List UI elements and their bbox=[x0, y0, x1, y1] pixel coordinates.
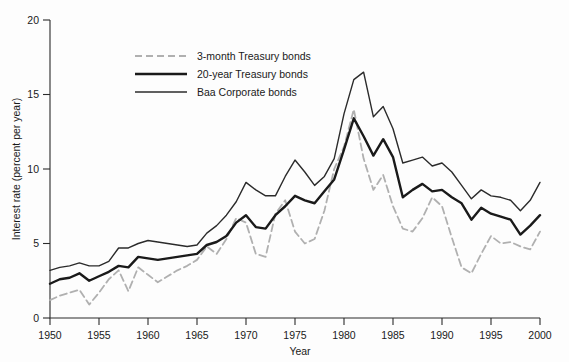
x-tick-label: 2000 bbox=[528, 329, 552, 341]
series-line-2 bbox=[50, 72, 540, 270]
legend-label-1: 20-year Treasury bonds bbox=[197, 68, 308, 80]
legend-label-0: 3-month Treasury bonds bbox=[197, 50, 311, 62]
series-line-0 bbox=[50, 109, 540, 304]
x-axis-ticks: 1950195519601965197019751980198519901995… bbox=[38, 318, 552, 341]
x-tick-label: 1950 bbox=[38, 329, 62, 341]
x-tick-label: 1955 bbox=[87, 329, 111, 341]
x-axis-title: Year bbox=[289, 345, 311, 357]
chart-canvas: 05101520 1950195519601965197019751980198… bbox=[0, 0, 569, 362]
x-tick-label: 1980 bbox=[332, 329, 356, 341]
x-tick-label: 1990 bbox=[430, 329, 454, 341]
axis-lines bbox=[50, 20, 540, 318]
y-tick-label: 5 bbox=[33, 237, 39, 249]
y-tick-label: 20 bbox=[27, 14, 39, 26]
y-tick-label: 15 bbox=[27, 88, 39, 100]
y-axis-title: Interest rate (percent per year) bbox=[10, 98, 22, 240]
series-line-1 bbox=[50, 118, 540, 283]
y-tick-label: 0 bbox=[33, 312, 39, 324]
y-axis-ticks: 05101520 bbox=[27, 14, 50, 324]
x-tick-label: 1965 bbox=[185, 329, 209, 341]
x-tick-label: 1975 bbox=[283, 329, 307, 341]
interest-rate-chart-figure: 05101520 1950195519601965197019751980198… bbox=[0, 0, 569, 362]
x-tick-label: 1960 bbox=[136, 329, 160, 341]
chart-legend: 3-month Treasury bonds20-year Treasury b… bbox=[135, 50, 311, 98]
legend-label-2: Baa Corporate bonds bbox=[197, 86, 297, 98]
series-lines-group bbox=[50, 72, 540, 304]
x-tick-label: 1970 bbox=[234, 329, 258, 341]
x-tick-label: 1985 bbox=[381, 329, 405, 341]
axes-group: 05101520 1950195519601965197019751980198… bbox=[27, 14, 552, 341]
y-tick-label: 10 bbox=[27, 163, 39, 175]
x-tick-label: 1995 bbox=[479, 329, 503, 341]
